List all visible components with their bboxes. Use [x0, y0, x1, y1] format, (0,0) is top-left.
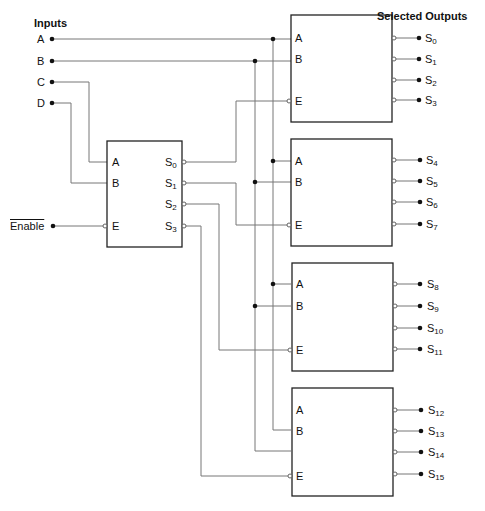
block3-pin-a: A	[296, 278, 303, 290]
input-label-b: B	[37, 55, 44, 67]
decoder-pin-a: A	[112, 156, 119, 168]
output-s3: S3	[425, 94, 437, 110]
decoder-out-s3: S3	[165, 220, 177, 236]
output-s15: S15	[428, 468, 444, 484]
output-s10: S10	[427, 322, 443, 338]
decoder-pin-e: E	[112, 220, 119, 232]
outputs-title: Selected Outputs	[377, 10, 467, 22]
demux-block-3	[292, 263, 393, 371]
output-s6: S6	[426, 196, 438, 212]
output-s0: S0	[425, 32, 437, 48]
inputs-title: Inputs	[34, 17, 67, 29]
wire-input-c	[52, 82, 107, 162]
block2-pin-a: A	[295, 155, 302, 167]
block1-pin-b: B	[295, 53, 302, 65]
block4-pin-e: E	[296, 470, 303, 482]
block2-pin-b: B	[295, 176, 302, 188]
output-s5: S5	[426, 175, 438, 191]
output-s4: S4	[426, 154, 438, 170]
block4-pin-b: B	[296, 425, 303, 437]
demux-block-2	[291, 139, 392, 246]
output-s9: S9	[427, 300, 439, 316]
block2-pin-e: E	[295, 219, 302, 231]
output-s7: S7	[426, 218, 438, 234]
demux-block-4	[292, 388, 393, 496]
output-s2: S2	[425, 74, 437, 90]
block3-pin-e: E	[296, 344, 303, 356]
decoder-out-s2: S2	[165, 198, 177, 214]
demux-circuit-diagram	[0, 0, 485, 511]
output-s8: S8	[427, 278, 439, 294]
wire-input-d	[52, 103, 107, 183]
demux-block-1	[291, 15, 392, 122]
input-label-d: D	[37, 97, 45, 109]
block3-pin-b: B	[296, 300, 303, 312]
decoder-out-s1: S1	[165, 177, 177, 193]
block1-pin-a: A	[295, 32, 302, 44]
output-s12: S12	[428, 404, 444, 420]
output-s1: S1	[425, 53, 437, 69]
block1-pin-e: E	[295, 95, 302, 107]
output-s11: S11	[427, 343, 443, 359]
block4-pin-a: A	[296, 404, 303, 416]
input-label-enable: Enable	[10, 220, 44, 232]
input-label-c: C	[37, 76, 45, 88]
input-label-a: A	[37, 33, 44, 45]
decoder-pin-b: B	[112, 177, 119, 189]
output-s13: S13	[428, 425, 444, 441]
output-s14: S14	[428, 446, 444, 462]
decoder-out-s0: S0	[165, 156, 177, 172]
